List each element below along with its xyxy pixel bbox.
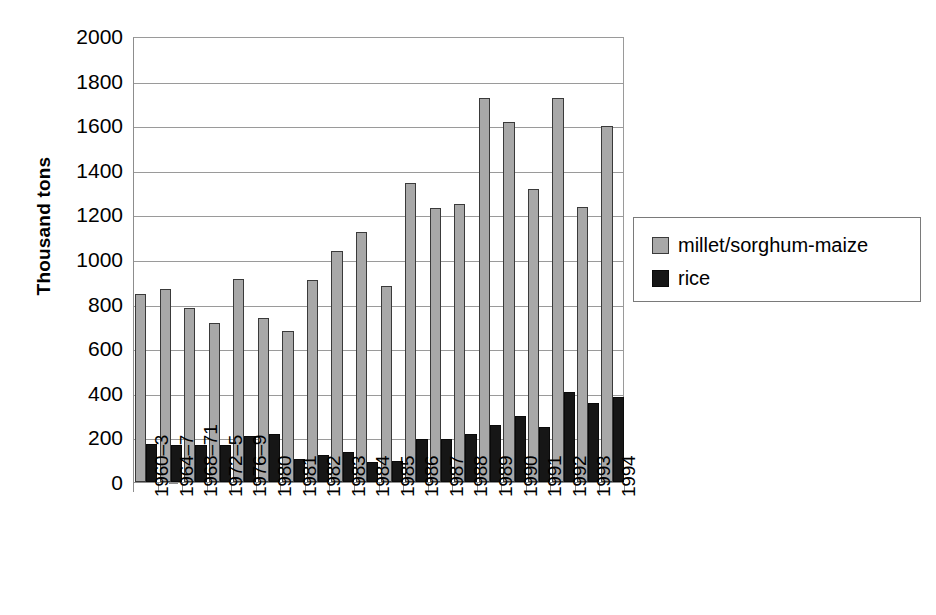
y-axis-tick-label: 800 <box>51 294 123 315</box>
y-axis-tick-label: 1200 <box>51 204 123 225</box>
bar-group <box>405 38 427 482</box>
bar-millet-sorghum-maize[interactable] <box>430 208 441 482</box>
bar-group <box>135 38 157 482</box>
bar-millet-sorghum-maize[interactable] <box>479 98 490 482</box>
x-axis-tick-label: 1983 <box>349 456 368 497</box>
bar-millet-sorghum-maize[interactable] <box>381 286 392 482</box>
bar-group <box>503 38 525 482</box>
bar-group <box>331 38 353 482</box>
x-axis-tick-label: 1993 <box>594 456 613 497</box>
x-axis-tick-label: 1986 <box>422 456 441 497</box>
y-axis-tick-label: 1600 <box>51 115 123 136</box>
x-axis-tick-label: 1980 <box>275 456 294 497</box>
legend-swatch-rice-icon <box>652 270 669 287</box>
x-axis-tick-mark <box>133 483 134 492</box>
x-axis-tick-label: 1985 <box>398 456 417 497</box>
bar-millet-sorghum-maize[interactable] <box>577 207 588 482</box>
x-axis-tick-label: 1972–5 <box>226 435 245 497</box>
y-axis-tick-labels: 2000180016001400120010008006004002000 <box>45 0 123 615</box>
bar-millet-sorghum-maize[interactable] <box>356 232 367 482</box>
bar-group <box>209 38 231 482</box>
bar-group <box>601 38 623 482</box>
x-axis-tick-label: 1987 <box>447 456 466 497</box>
bar-group <box>356 38 378 482</box>
y-axis-tick-label: 200 <box>51 427 123 448</box>
bar-group <box>430 38 452 482</box>
bar-group <box>258 38 280 482</box>
bar-group <box>528 38 550 482</box>
x-axis-tick-label: 1989 <box>496 456 515 497</box>
y-axis-tick-label: 0 <box>51 472 123 493</box>
y-axis-tick-label: 1000 <box>51 249 123 270</box>
legend-item[interactable]: rice <box>652 265 710 291</box>
legend-swatch-millet-icon <box>652 237 669 254</box>
bar-group <box>282 38 304 482</box>
legend-label: rice <box>678 268 710 288</box>
x-axis-tick-label: 1990 <box>521 456 540 497</box>
bar-group <box>479 38 501 482</box>
x-axis-tick-label: 1982 <box>324 456 343 497</box>
x-axis-tick-label: 1992 <box>570 456 589 497</box>
x-axis-tick-label: 1994 <box>619 456 638 497</box>
bar-group <box>160 38 182 482</box>
legend-item[interactable]: millet/sorghum-maize <box>652 232 868 258</box>
x-axis-tick-label: 1964–7 <box>177 435 196 497</box>
bar-millet-sorghum-maize[interactable] <box>135 294 146 482</box>
y-axis-tick-label: 600 <box>51 338 123 359</box>
x-axis-tick-label: 1991 <box>545 456 564 497</box>
x-axis-tick-label: 1976–9 <box>250 435 269 497</box>
bar-millet-sorghum-maize[interactable] <box>601 126 612 482</box>
y-axis-tick-label: 400 <box>51 383 123 404</box>
chart-legend: millet/sorghum-maizerice <box>633 217 921 302</box>
bar-millet-sorghum-maize[interactable] <box>503 122 514 482</box>
legend-label: millet/sorghum-maize <box>678 235 868 255</box>
bar-chart-figure: Thousand tons 20001800160014001200100080… <box>0 0 936 615</box>
x-axis-tick-labels: 1960–31964–71968–711972–51976–9198019811… <box>133 493 624 613</box>
bar-millet-sorghum-maize[interactable] <box>528 189 539 482</box>
bar-millet-sorghum-maize[interactable] <box>307 280 318 482</box>
y-axis-tick-label: 2000 <box>51 26 123 47</box>
plot-area <box>133 37 624 483</box>
bar-group <box>233 38 255 482</box>
bar-group <box>381 38 403 482</box>
bar-group <box>454 38 476 482</box>
x-axis-tick-label: 1968–71 <box>201 424 220 497</box>
bar-millet-sorghum-maize[interactable] <box>454 204 465 482</box>
x-axis-tick-label: 1960–3 <box>152 435 171 497</box>
x-axis-tick-label: 1988 <box>471 456 490 497</box>
bar-millet-sorghum-maize[interactable] <box>552 98 563 482</box>
y-axis-tick-label: 1400 <box>51 160 123 181</box>
bar-group <box>307 38 329 482</box>
x-axis-tick-label: 1984 <box>373 456 392 497</box>
bar-group <box>552 38 574 482</box>
bar-millet-sorghum-maize[interactable] <box>405 183 416 482</box>
bar-millet-sorghum-maize[interactable] <box>331 251 342 482</box>
bar-group <box>184 38 206 482</box>
x-axis-tick-label: 1981 <box>300 456 319 497</box>
bar-group <box>577 38 599 482</box>
y-axis-tick-label: 1800 <box>51 71 123 92</box>
